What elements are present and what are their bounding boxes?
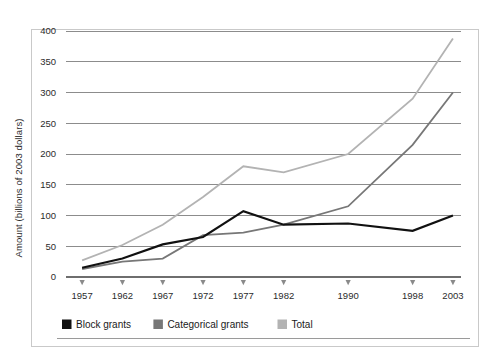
x-tick-mark — [160, 280, 165, 285]
y-tick-label: 300 — [40, 87, 56, 98]
x-tick-label: 1982 — [273, 290, 294, 301]
y-tick-label: 250 — [40, 118, 56, 129]
y-tick-label: 350 — [40, 56, 56, 67]
x-tick-label: 1967 — [152, 290, 173, 301]
y-tick-label: 200 — [40, 148, 56, 159]
x-tick-label: 1957 — [72, 290, 93, 301]
x-tick-mark — [450, 280, 455, 285]
x-tick-mark — [200, 280, 205, 285]
legend-label: Categorical grants — [167, 319, 248, 330]
x-tick-mark — [410, 280, 415, 285]
x-tick-label: 2003 — [442, 290, 463, 301]
series-line — [82, 93, 453, 270]
x-tick-label: 1977 — [233, 290, 254, 301]
chart-legend: Block grantsCategorical grantsTotal — [57, 319, 470, 339]
y-tick-label: 400 — [40, 25, 56, 36]
y-tick-label: 100 — [40, 210, 56, 221]
legend-swatch — [153, 320, 163, 330]
y-tick-label: 150 — [40, 179, 56, 190]
x-tick-mark — [241, 280, 246, 285]
line-chart: 050100150200250300350400 195719621967197… — [0, 0, 490, 358]
x-tick-mark — [281, 280, 286, 285]
x-tick-mark — [120, 280, 125, 285]
x-tick-mark — [346, 280, 351, 285]
x-tick-label: 1962 — [112, 290, 133, 301]
y-axis-title: Amount (billions of 2003 dollars) — [13, 118, 24, 257]
chart-figure: 050100150200250300350400 195719621967197… — [0, 0, 490, 358]
series-line — [82, 211, 453, 268]
y-axis-title-text: Amount (billions of 2003 dollars) — [13, 118, 24, 257]
x-tick-mark — [80, 280, 85, 285]
x-tick-label: 1998 — [402, 290, 423, 301]
legend-swatch — [278, 320, 288, 330]
legend-swatch — [62, 320, 72, 330]
x-tick-marks — [80, 280, 456, 285]
x-tick-label: 1990 — [338, 290, 359, 301]
legend-label: Total — [292, 319, 313, 330]
y-tick-labels: 050100150200250300350400 — [40, 25, 56, 282]
y-tick-label: 50 — [45, 241, 56, 252]
y-tick-label: 0 — [51, 271, 56, 282]
legend-label: Block grants — [76, 319, 131, 330]
x-tick-label: 1972 — [192, 290, 213, 301]
x-tick-labels: 195719621967197219771982199019982003 — [72, 290, 464, 301]
